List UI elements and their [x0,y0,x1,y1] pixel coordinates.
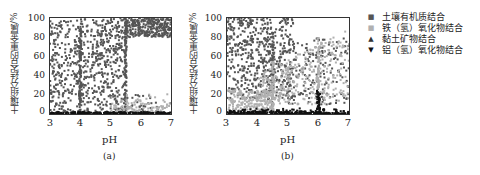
x-tick: 6 [135,117,147,128]
x-axis-label: pH [280,134,295,145]
legend-item-iron-oxide: ■ 铁（氢）氧化物结合 [366,23,463,34]
legend-label: 铁（氢）氧化物结合 [382,23,463,34]
y-tick: 0 [202,106,222,116]
legend-label: 土壤有机质结合 [382,12,445,23]
triangle-up-marker-icon: ▲ [366,34,376,45]
legend-item-organic-matter: ■ 土壤有机质结合 [366,12,463,23]
y-tick: 60 [202,51,222,61]
x-tick: 4 [251,117,263,128]
y-tick: 40 [202,70,222,80]
chart-panel-b: 土壤组分结合的重金属/% 100 80 60 40 20 0 3 4 5 6 7… [180,0,360,175]
triangle-down-marker-icon: ▼ [366,45,376,56]
y-tick: 40 [25,70,45,80]
x-tick: 5 [104,117,116,128]
y-tick: 60 [25,51,45,61]
scatter-points [227,18,349,114]
legend-label: 黏土矿物结合 [382,34,436,45]
x-tick: 3 [44,117,56,128]
scatter-plot-b [226,17,350,115]
y-axis-label: 土壤组分结合的重金属/% [7,14,20,114]
y-tick: 100 [25,13,45,23]
chart-panel-a: 土壤组分结合的重金属/% 100 80 60 40 20 0 3 4 5 6 7… [0,0,180,175]
scatter-points [50,18,171,114]
legend-item-clay-mineral: ▲ 黏土矿物结合 [366,34,463,45]
y-tick: 20 [202,89,222,99]
y-tick: 20 [25,89,45,99]
x-tick: 7 [342,117,354,128]
legend-item-aluminum-oxide: ▼ 铝（氢）氧化物结合 [366,45,463,56]
scatter-plot-a [49,17,172,115]
chart-legend: ■ 土壤有机质结合 ■ 铁（氢）氧化物结合 ▲ 黏土矿物结合 ▼ 铝（氢）氧化物… [366,12,463,56]
y-tick: 0 [25,106,45,116]
panel-caption: (a) [103,151,115,161]
y-tick: 80 [202,32,222,42]
legend-label: 铝（氢）氧化物结合 [382,45,463,56]
square-marker-icon: ■ [366,23,376,34]
panel-caption: (b) [281,151,294,161]
x-tick: 3 [220,117,232,128]
x-axis-label: pH [102,134,117,145]
y-tick: 80 [25,32,45,42]
y-axis-label: 土壤组分结合的重金属/% [186,14,199,114]
x-tick: 4 [74,117,86,128]
square-marker-icon: ■ [366,12,376,23]
x-tick: 6 [312,117,324,128]
x-tick: 7 [165,117,177,128]
y-tick: 100 [202,13,222,23]
x-tick: 5 [281,117,293,128]
